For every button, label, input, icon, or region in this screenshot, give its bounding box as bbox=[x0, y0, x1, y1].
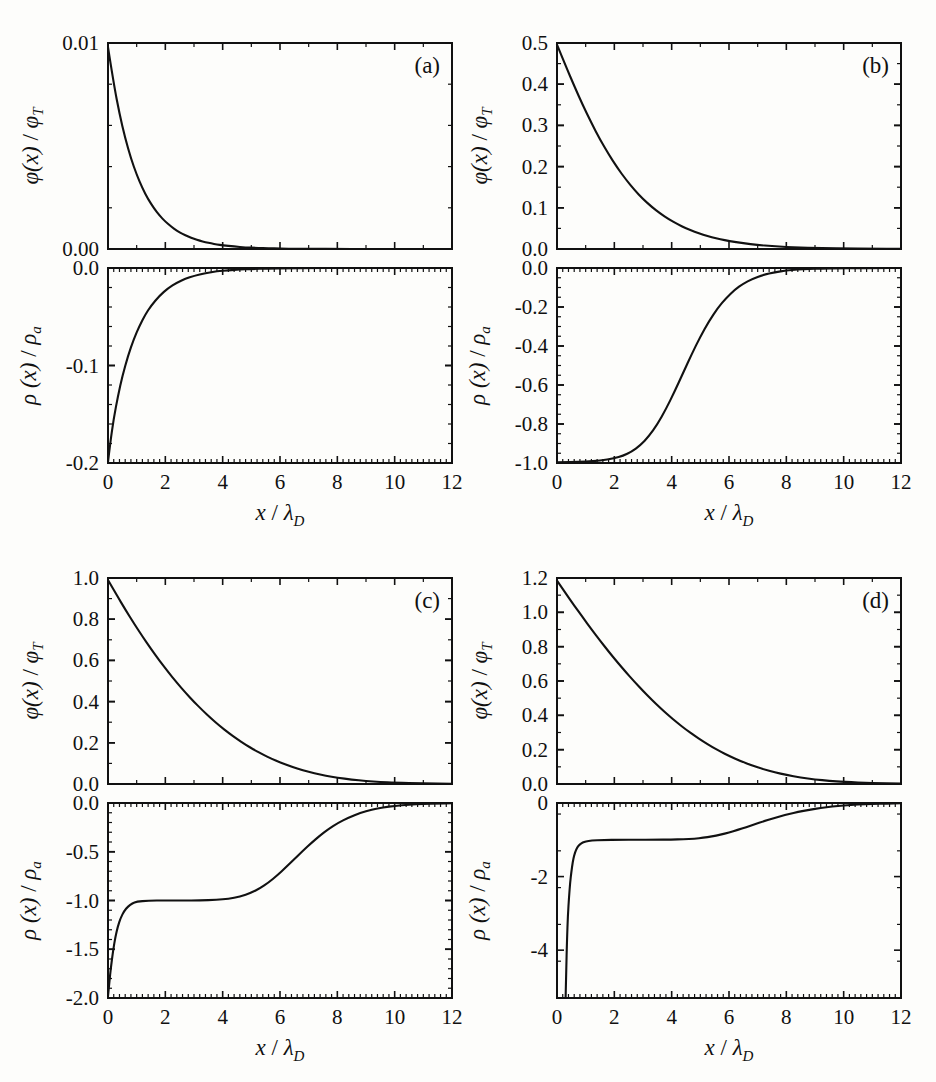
data-curve bbox=[557, 45, 901, 249]
y-tick-label: -0.2 bbox=[66, 451, 99, 475]
y-tick-label: 0.8 bbox=[73, 607, 99, 631]
y-tick-label: 1.0 bbox=[522, 600, 548, 624]
d-top-plot: 0.00.20.40.60.81.01.2(d)φ(x) / φT bbox=[0, 0, 936, 1082]
x-axis-label: x / λD bbox=[704, 500, 754, 529]
y-tick-label: 0.4 bbox=[522, 703, 549, 727]
x-tick-label: 2 bbox=[160, 470, 171, 494]
y-tick-label: -2 bbox=[531, 865, 549, 889]
y-tick-label: -1.5 bbox=[66, 937, 99, 961]
d-bottom-plot: -4-20024681012ρ (x) / ρax / λD bbox=[0, 0, 936, 1082]
x-tick-label: 4 bbox=[217, 1005, 228, 1029]
x-tick-label: 6 bbox=[275, 470, 286, 494]
y-tick-label: 0.0 bbox=[73, 772, 99, 796]
y-tick-label: 0.2 bbox=[522, 155, 548, 179]
data-curve bbox=[108, 268, 452, 462]
y-tick-label: -4 bbox=[531, 938, 549, 962]
data-curve bbox=[557, 581, 901, 784]
x-tick-label: 0 bbox=[552, 1005, 563, 1029]
y-tick-label: 0.01 bbox=[62, 31, 99, 55]
x-tick-label: 8 bbox=[332, 1005, 343, 1029]
y-axis-label: φ(x) / φT bbox=[18, 641, 46, 720]
x-axis-label: x / λD bbox=[255, 1035, 305, 1064]
plot-frame bbox=[557, 43, 901, 249]
b-bottom-plot: -1.0-0.8-0.6-0.4-0.20.0024681012ρ (x) / … bbox=[0, 0, 936, 1082]
y-tick-label: 0.8 bbox=[522, 635, 548, 659]
y-axis-label: φ(x) / φT bbox=[467, 641, 495, 720]
a-top-plot: 0.000.01(a)φ(x) / φT bbox=[0, 0, 936, 1082]
data-curve bbox=[108, 47, 452, 249]
plot-frame bbox=[557, 268, 901, 463]
x-tick-label: 0 bbox=[103, 1005, 114, 1029]
x-tick-label: 12 bbox=[891, 470, 912, 494]
plot-frame bbox=[557, 803, 901, 998]
y-tick-label: 0.0 bbox=[73, 791, 99, 815]
y-tick-label: -0.1 bbox=[66, 354, 99, 378]
y-tick-label: 0.0 bbox=[522, 237, 548, 261]
panel-letter: (d) bbox=[862, 588, 889, 613]
y-axis-label: φ(x) / φT bbox=[467, 106, 495, 185]
y-axis-label: ρ (x) / ρa bbox=[16, 861, 44, 941]
y-tick-label: 1.0 bbox=[73, 566, 99, 590]
y-tick-label: 0.00 bbox=[62, 237, 99, 261]
y-tick-label: -0.8 bbox=[515, 412, 548, 436]
y-axis-label: ρ (x) / ρa bbox=[16, 326, 44, 406]
y-tick-label: 0.2 bbox=[522, 738, 548, 762]
x-tick-label: 8 bbox=[781, 1005, 792, 1029]
x-tick-label: 6 bbox=[724, 1005, 735, 1029]
x-tick-label: 8 bbox=[332, 470, 343, 494]
y-tick-label: 0.0 bbox=[522, 256, 548, 280]
y-tick-label: 0.0 bbox=[73, 256, 99, 280]
b-top-plot: 0.00.10.20.30.40.5(b)φ(x) / φT bbox=[0, 0, 936, 1082]
y-tick-label: 0.6 bbox=[73, 648, 99, 672]
plot-frame bbox=[108, 578, 452, 784]
x-tick-label: 0 bbox=[103, 470, 114, 494]
c-top-plot: 0.00.20.40.60.81.0(c)φ(x) / φT bbox=[0, 0, 936, 1082]
panel-letter: (c) bbox=[414, 588, 440, 613]
c-bottom-plot: -2.0-1.5-1.0-0.50.0024681012ρ (x) / ρax … bbox=[0, 0, 936, 1082]
y-tick-label: 0.2 bbox=[73, 731, 99, 755]
x-axis-label: x / λD bbox=[704, 1035, 754, 1064]
x-tick-label: 4 bbox=[217, 470, 228, 494]
x-tick-label: 12 bbox=[442, 470, 463, 494]
y-tick-label: -1.0 bbox=[515, 451, 548, 475]
x-tick-label: 12 bbox=[891, 1005, 912, 1029]
x-tick-label: 2 bbox=[609, 470, 620, 494]
panel-letter: (a) bbox=[414, 53, 440, 78]
x-axis-label: x / λD bbox=[255, 500, 305, 529]
y-tick-label: 0.4 bbox=[73, 690, 100, 714]
y-axis-label: φ(x) / φT bbox=[18, 106, 46, 185]
data-curve bbox=[108, 803, 452, 996]
y-tick-label: 0.4 bbox=[522, 72, 549, 96]
panel-letter: (b) bbox=[862, 53, 889, 78]
y-tick-label: 0 bbox=[538, 791, 549, 815]
x-tick-label: 6 bbox=[275, 1005, 286, 1029]
y-axis-label: ρ (x) / ρa bbox=[465, 861, 493, 941]
a-bottom-plot: -0.2-0.10.0024681012ρ (x) / ρax / λD bbox=[0, 0, 936, 1082]
plot-frame bbox=[557, 578, 901, 784]
y-tick-label: 0.3 bbox=[522, 113, 548, 137]
y-tick-label: -0.5 bbox=[66, 840, 99, 864]
y-tick-label: 1.2 bbox=[522, 566, 548, 590]
figure-canvas: 0.000.01(a)φ(x) / φT-0.2-0.10.0024681012… bbox=[0, 0, 936, 1082]
data-curve bbox=[566, 803, 901, 998]
x-tick-label: 0 bbox=[552, 470, 563, 494]
data-curve bbox=[108, 580, 452, 784]
data-curve bbox=[557, 268, 901, 462]
x-tick-label: 4 bbox=[666, 1005, 677, 1029]
y-tick-label: 0.6 bbox=[522, 669, 548, 693]
y-tick-label: -1.0 bbox=[66, 889, 99, 913]
y-tick-label: -0.4 bbox=[515, 334, 549, 358]
y-tick-label: 0.0 bbox=[522, 772, 548, 796]
x-tick-label: 6 bbox=[724, 470, 735, 494]
y-tick-label: 0.1 bbox=[522, 196, 548, 220]
y-tick-label: -2.0 bbox=[66, 986, 99, 1010]
x-tick-label: 10 bbox=[384, 1005, 405, 1029]
y-tick-label: -0.6 bbox=[515, 373, 548, 397]
x-tick-label: 10 bbox=[833, 1005, 854, 1029]
plot-frame bbox=[108, 803, 452, 998]
y-tick-label: -0.2 bbox=[515, 295, 548, 319]
x-tick-label: 10 bbox=[384, 470, 405, 494]
x-tick-label: 2 bbox=[160, 1005, 171, 1029]
x-tick-label: 10 bbox=[833, 470, 854, 494]
plot-frame bbox=[108, 268, 452, 463]
